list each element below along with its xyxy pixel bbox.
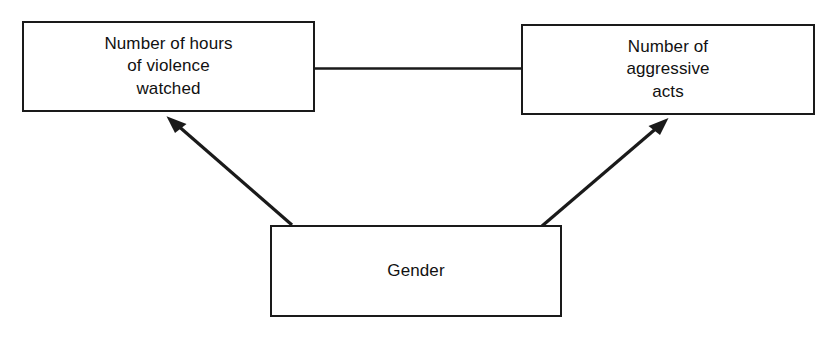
node-gender[interactable]: Gender: [270, 225, 562, 317]
diagram-canvas: Number of hours of violence watched Numb…: [0, 0, 839, 342]
node-gender-label: Gender: [381, 260, 450, 282]
arrowhead-icon: [649, 118, 669, 135]
arrowhead-icon: [167, 116, 187, 133]
node-hours-of-violence-watched[interactable]: Number of hours of violence watched: [22, 21, 315, 112]
node-number-of-aggressive-acts[interactable]: Number of aggressive acts: [521, 24, 815, 115]
edge-gender-to-aggressive: [542, 118, 669, 226]
edge-gender-to-hours: [167, 116, 293, 225]
node-hours-label: Number of hours of violence watched: [98, 33, 238, 99]
node-aggressive-label: Number of aggressive acts: [620, 36, 715, 102]
